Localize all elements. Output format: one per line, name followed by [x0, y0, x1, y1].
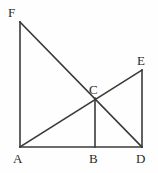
- geometry-figure: F E C A B D: [0, 0, 158, 173]
- vertex-label-F: F: [8, 6, 15, 19]
- vertex-label-E: E: [137, 54, 145, 67]
- geometry-canvas: [0, 0, 158, 173]
- vertex-label-C: C: [89, 83, 98, 96]
- vertex-label-D: D: [136, 152, 145, 165]
- vertex-label-A: A: [13, 152, 22, 165]
- segment-AE: [20, 70, 142, 147]
- segment-FD: [20, 22, 142, 147]
- vertex-label-B: B: [89, 152, 98, 165]
- segment-group: [20, 22, 142, 147]
